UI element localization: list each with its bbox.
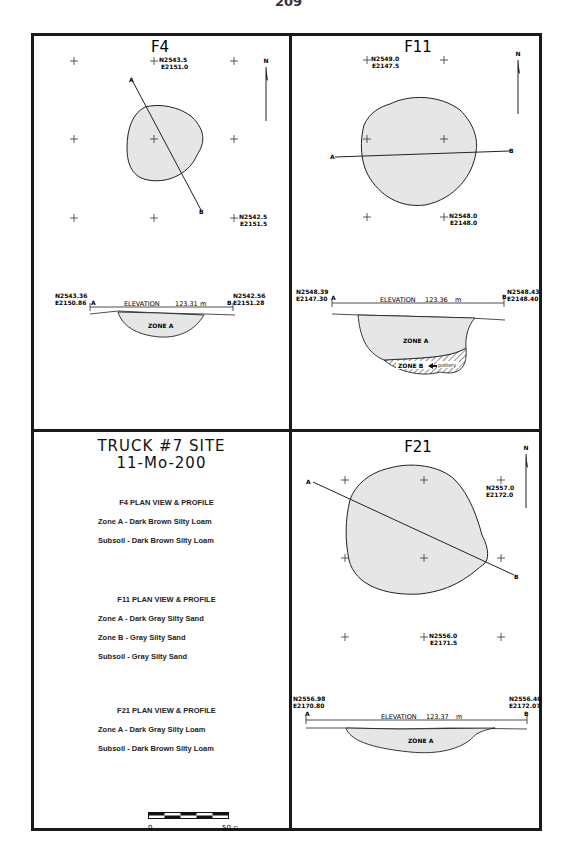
- svg-text:F21: F21: [404, 438, 432, 456]
- panel-f11: F11 N N2549.0 E2147.5 N2548.0 E2148.0 A …: [296, 38, 539, 374]
- svg-text:A: A: [305, 710, 310, 717]
- svg-text:B: B: [199, 208, 204, 215]
- svg-text:B: B: [509, 147, 514, 154]
- svg-text:E2151.0: E2151.0: [161, 63, 188, 70]
- svg-text:pottery: pottery: [438, 362, 456, 369]
- svg-text:B: B: [502, 293, 507, 300]
- svg-text:N2542.56: N2542.56: [233, 292, 265, 299]
- svg-text:N2557.0: N2557.0: [486, 484, 514, 491]
- svg-text:N2542.5: N2542.5: [239, 213, 267, 220]
- svg-text:N2548.39: N2548.39: [296, 288, 328, 295]
- north-arrow-icon: N: [263, 57, 268, 121]
- site-title: TRUCK #7 SITE: [34, 438, 289, 455]
- svg-text:E2147.30: E2147.30: [296, 295, 327, 302]
- svg-text:N: N: [263, 57, 268, 64]
- svg-text:ZONE B: ZONE B: [398, 362, 424, 369]
- legend-panel: TRUCK #7 SITE 11-Mo-200 F4 PLAN VIEW & P…: [34, 432, 289, 828]
- svg-text:N: N: [515, 50, 520, 57]
- svg-text:N2543.5: N2543.5: [159, 56, 187, 63]
- svg-text:E2172.07: E2172.07: [509, 702, 540, 709]
- svg-text:E2170.80: E2170.80: [293, 702, 324, 709]
- svg-text:ZONE A: ZONE A: [148, 322, 174, 329]
- svg-text:N2548.0: N2548.0: [449, 212, 477, 219]
- svg-text:A: A: [91, 299, 96, 306]
- svg-text:B: B: [514, 573, 519, 580]
- svg-text:A: A: [306, 478, 311, 485]
- feature-outline: [127, 105, 203, 180]
- svg-text:E2147.5: E2147.5: [372, 62, 399, 69]
- svg-text:N2556.0: N2556.0: [429, 632, 457, 639]
- svg-text:E2172.0: E2172.0: [486, 491, 513, 498]
- svg-text:N2548.43: N2548.43: [507, 288, 539, 295]
- svg-text:A: A: [129, 76, 134, 83]
- svg-text:ZONE A: ZONE A: [403, 337, 429, 344]
- legend-section-f11: F11 PLAN VIEW & PROFILE Zone A - Dark Gr…: [34, 595, 289, 671]
- svg-text:A: A: [330, 153, 335, 160]
- svg-text:N2556.98: N2556.98: [293, 695, 325, 702]
- svg-text:B: B: [227, 299, 232, 306]
- feature-outline: [361, 97, 476, 205]
- svg-text:m: m: [200, 300, 206, 308]
- panel-f4: F4 N N2543.5 E2151.0 N2542.5 E2151.5 A B…: [55, 38, 269, 337]
- north-arrow-icon: N: [515, 50, 520, 114]
- svg-text:E2148.40: E2148.40: [507, 295, 538, 302]
- svg-text:N: N: [523, 444, 528, 451]
- svg-text:ELEVATION: ELEVATION: [124, 300, 160, 308]
- svg-text:123.36: 123.36: [425, 296, 448, 304]
- svg-text:m: m: [455, 296, 461, 304]
- svg-text:E2151.5: E2151.5: [240, 220, 267, 227]
- svg-text:N2543.36: N2543.36: [55, 292, 87, 299]
- svg-text:ELEVATION: ELEVATION: [380, 296, 416, 304]
- north-arrow-icon: N: [523, 444, 528, 508]
- svg-text:F11: F11: [404, 38, 432, 56]
- panel-f21: F21 N N2557.0 E2172.0 N2556.0 E2171.5 A …: [293, 438, 541, 753]
- svg-text:123.31: 123.31: [175, 300, 198, 308]
- svg-text:N2549.0: N2549.0: [371, 55, 399, 62]
- svg-text:ZONE A: ZONE A: [408, 737, 434, 744]
- site-number: 11-Mo-200: [34, 455, 289, 472]
- panel-title: F4: [151, 38, 169, 56]
- svg-text:E2151.28: E2151.28: [233, 299, 264, 306]
- scale-bar: 0 50 cm: [148, 812, 238, 840]
- svg-text:B: B: [524, 710, 529, 717]
- svg-text:N2556.40: N2556.40: [509, 695, 541, 702]
- svg-text:ELEVATION: ELEVATION: [381, 713, 417, 721]
- svg-text:50 cm: 50 cm: [222, 824, 238, 832]
- svg-text:123.37: 123.37: [426, 713, 449, 721]
- legend-section-f21: F21 PLAN VIEW & PROFILE Zone A - Dark Gr…: [34, 706, 289, 763]
- legend-section-f4: F4 PLAN VIEW & PROFILE Zone A - Dark Bro…: [34, 498, 289, 555]
- svg-text:E2148.0: E2148.0: [450, 219, 477, 226]
- svg-text:0: 0: [148, 824, 152, 832]
- svg-text:E2150.86: E2150.86: [55, 299, 86, 306]
- svg-text:E2171.5: E2171.5: [430, 639, 457, 646]
- site-title-block: TRUCK #7 SITE 11-Mo-200: [34, 438, 289, 472]
- svg-text:m: m: [456, 713, 462, 721]
